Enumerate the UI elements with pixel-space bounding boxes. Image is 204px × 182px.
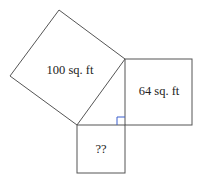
pythagorean-diagram: 100 sq. ft 64 sq. ft ??	[0, 0, 204, 182]
hypotenuse-label: 100 sq. ft	[47, 63, 94, 77]
right-leg-label: 64 sq. ft	[139, 84, 180, 98]
bottom-leg-label: ??	[95, 142, 107, 156]
right-angle-marker	[117, 117, 125, 125]
